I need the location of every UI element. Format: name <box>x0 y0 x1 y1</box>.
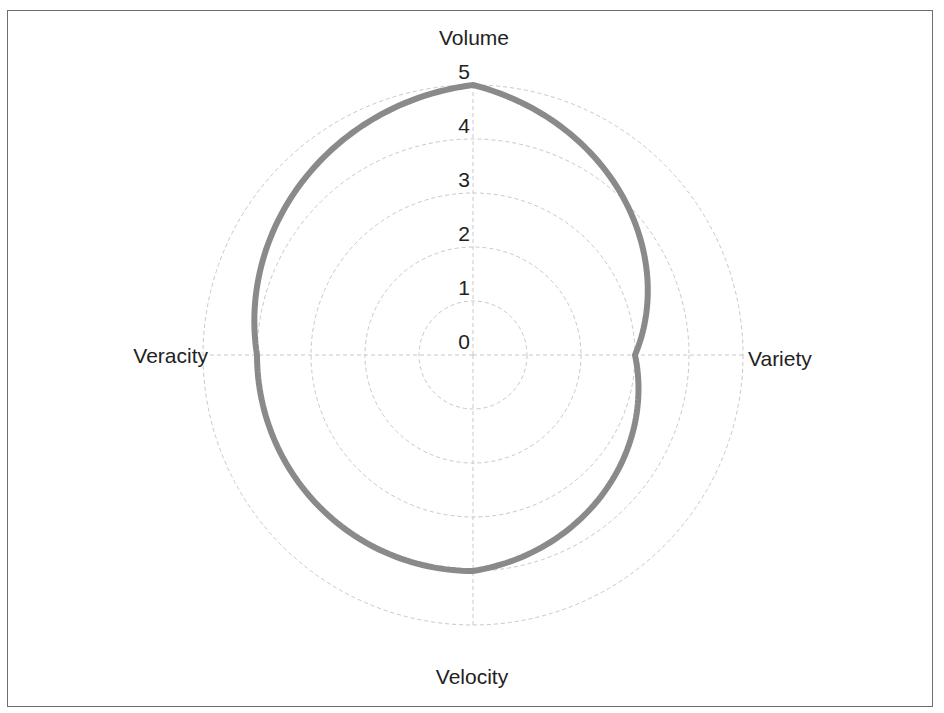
radar-chart: 012345 Volume Variety Velocity Veracity <box>0 0 944 713</box>
radial-tick-label: 4 <box>458 114 470 137</box>
axis-label-veracity: Veracity <box>133 344 208 367</box>
radial-tick-label: 0 <box>458 330 470 353</box>
radial-tick-label: 1 <box>458 276 470 299</box>
axis-label-velocity: Velocity <box>436 665 509 688</box>
radial-tick-label: 3 <box>458 168 470 191</box>
radial-tick-label: 5 <box>458 60 470 83</box>
axis-label-volume: Volume <box>439 26 509 49</box>
axis-label-variety: Variety <box>748 347 812 370</box>
grid <box>203 85 743 625</box>
radial-tick-labels: 012345 <box>458 60 470 353</box>
radial-tick-label: 2 <box>458 222 470 245</box>
